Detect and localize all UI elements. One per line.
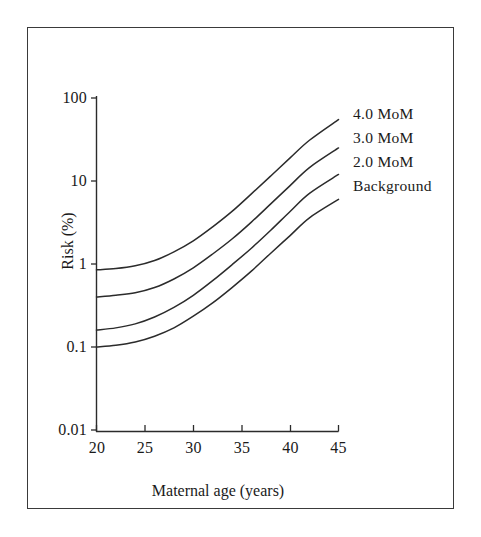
x-tick-label-20: 20: [77, 440, 117, 456]
x-tick-label-35: 35: [222, 440, 262, 456]
series-label-2-0-mom: 2.0 MoM: [353, 154, 414, 170]
x-axis-title: Maternal age (years): [97, 482, 339, 500]
x-tick-label-30: 30: [174, 440, 214, 456]
series-label-background: Background: [353, 178, 432, 194]
x-tick-label-45: 45: [319, 440, 359, 456]
y-tick-label-0-01: 0.01: [30, 422, 87, 438]
series-label-3-0-mom: 3.0 MoM: [353, 130, 414, 146]
figure-container: 100 10 1 0.1 0.01 20 25 30 35 40 45 Risk…: [0, 0, 481, 537]
curve-2-0-mom: [97, 174, 339, 330]
series-label-4-0-mom: 4.0 MoM: [353, 106, 414, 122]
curve-4-0-mom: [97, 120, 339, 270]
y-axis-ticks: [91, 98, 97, 430]
x-axis-ticks: [97, 425, 339, 432]
x-tick-label-25: 25: [125, 440, 165, 456]
y-tick-label-100: 100: [38, 90, 87, 106]
y-tick-label-0-1: 0.1: [38, 339, 87, 355]
x-tick-label-40: 40: [271, 440, 311, 456]
y-axis-title: Risk (%): [59, 201, 77, 281]
y-tick-label-10: 10: [38, 173, 87, 189]
